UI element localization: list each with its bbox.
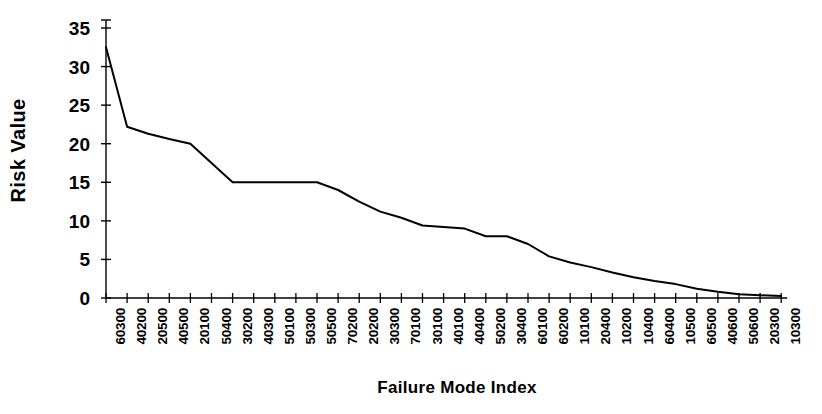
x-axis-tick-label: 60500: [704, 308, 720, 370]
x-axis-tick-label: 40100: [451, 308, 467, 370]
x-axis-tick-label: 10500: [683, 308, 699, 370]
x-axis-tick-label: 60400: [662, 308, 678, 370]
y-axis-tick-label: 20: [38, 134, 90, 153]
x-axis-tick-label: 20500: [155, 308, 171, 370]
x-axis-tick-label: 40600: [725, 308, 741, 370]
x-axis-tick-label: 20400: [598, 308, 614, 370]
x-axis-tick-label: 30400: [514, 308, 530, 370]
risk-value-line-chart: Risk Value 05101520253035 60300402002050…: [0, 0, 822, 414]
x-axis-tick-label: 50200: [493, 308, 509, 370]
data-series-group: [106, 47, 781, 296]
plot-area: [96, 10, 818, 310]
x-axis-tick-label: 10300: [788, 308, 804, 370]
y-axis-tick-label: 15: [38, 173, 90, 192]
x-axis-tick-label: 20100: [197, 308, 213, 370]
x-axis-tick-label: 60200: [556, 308, 572, 370]
y-axis-tick-label: 25: [38, 96, 90, 115]
x-axis-tick-label: 30200: [240, 308, 256, 370]
x-axis-tick-label: 40400: [472, 308, 488, 370]
x-axis-tick-label: 70100: [408, 308, 424, 370]
plot-svg: [96, 10, 818, 310]
y-axis-tick-label: 10: [38, 211, 90, 230]
x-axis-tick-label: 60300: [113, 308, 129, 370]
x-axis-tick-label: 20200: [366, 308, 382, 370]
x-axis-tick-label: 50300: [303, 308, 319, 370]
x-axis-tick-label: 50600: [746, 308, 762, 370]
x-axis-title: Failure Mode Index: [96, 378, 818, 398]
y-axis-title-text: Risk Value: [7, 98, 30, 202]
y-axis-tick-labels: 05101520253035: [38, 0, 96, 320]
x-axis-tick-label: 60100: [535, 308, 551, 370]
y-axis-title: Risk Value: [0, 0, 36, 300]
x-axis-tick-label: 30300: [387, 308, 403, 370]
x-axis-tick-label: 10200: [619, 308, 635, 370]
y-axis-tick-label: 5: [38, 250, 90, 269]
x-axis-tick-label: 50500: [324, 308, 340, 370]
x-axis-tick-label: 10400: [641, 308, 657, 370]
x-axis-tick-labels: 6030040200205004050020100504003020040300…: [96, 300, 818, 374]
x-axis-tick-label: 50400: [219, 308, 235, 370]
x-axis-tick-label: 40300: [261, 308, 277, 370]
x-axis-tick-label: 40500: [176, 308, 192, 370]
y-axis-tick-label: 30: [38, 57, 90, 76]
x-axis-tick-label: 20300: [767, 308, 783, 370]
y-axis-tick-label: 35: [38, 19, 90, 38]
x-axis-tick-label: 50100: [282, 308, 298, 370]
x-axis-tick-label: 30100: [430, 308, 446, 370]
y-axis-tick-label: 0: [38, 289, 90, 308]
x-axis-tick-label: 40200: [134, 308, 150, 370]
x-axis-tick-label: 10100: [577, 308, 593, 370]
x-axis-tick-label: 70200: [345, 308, 361, 370]
risk-value-line: [106, 47, 781, 296]
